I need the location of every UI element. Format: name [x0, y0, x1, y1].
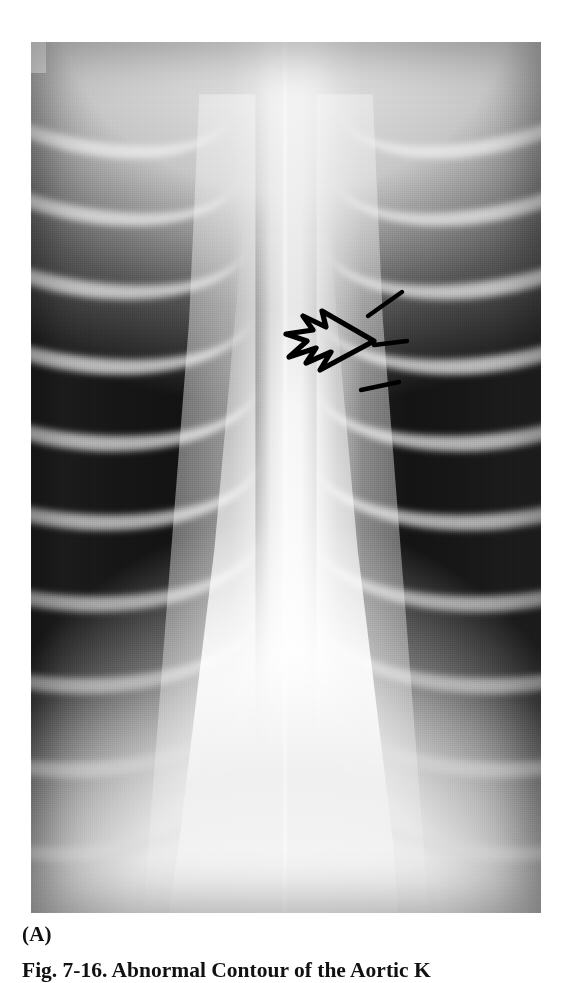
- chest-radiograph: [31, 42, 541, 913]
- panel-label: (A): [22, 922, 52, 947]
- figure-caption: Fig. 7-16. Abnormal Contour of the Aorti…: [22, 957, 570, 983]
- film-vignette: [31, 42, 541, 913]
